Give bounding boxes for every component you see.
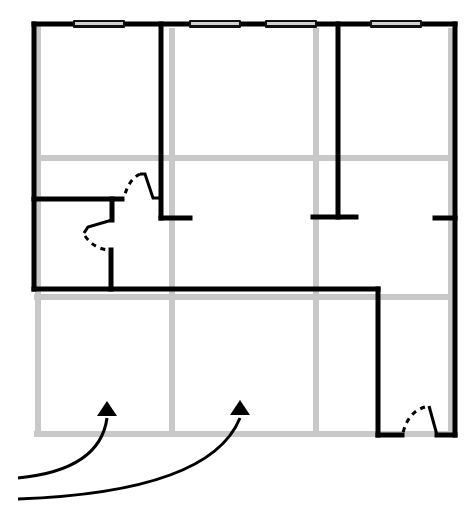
entry-arrow-left-line xyxy=(18,418,107,478)
arrows xyxy=(18,400,250,499)
walls xyxy=(34,24,455,435)
door-bottom-right xyxy=(403,406,437,435)
door-bottom-right-leaf xyxy=(429,406,437,435)
window-2 xyxy=(189,20,241,28)
doors xyxy=(84,174,437,435)
door-upper-swing xyxy=(124,174,140,198)
window-3 xyxy=(265,20,317,28)
floor-plan xyxy=(0,0,468,520)
window-4 xyxy=(370,20,422,28)
window-1 xyxy=(73,20,125,28)
entry-arrow-right xyxy=(18,400,250,499)
entry-arrow-right-line xyxy=(18,418,240,499)
door-bottom-right-swing xyxy=(403,407,425,433)
entry-arrow-left xyxy=(18,401,117,478)
grid-lines xyxy=(34,24,452,437)
door-closet xyxy=(84,220,112,250)
door-upper xyxy=(124,174,160,198)
door-closet-swing xyxy=(85,236,111,250)
entry-arrow-right-head xyxy=(230,400,250,415)
entry-arrow-left-head xyxy=(97,401,117,416)
door-closet-leaf xyxy=(84,220,112,233)
door-upper-leaf xyxy=(140,174,160,198)
